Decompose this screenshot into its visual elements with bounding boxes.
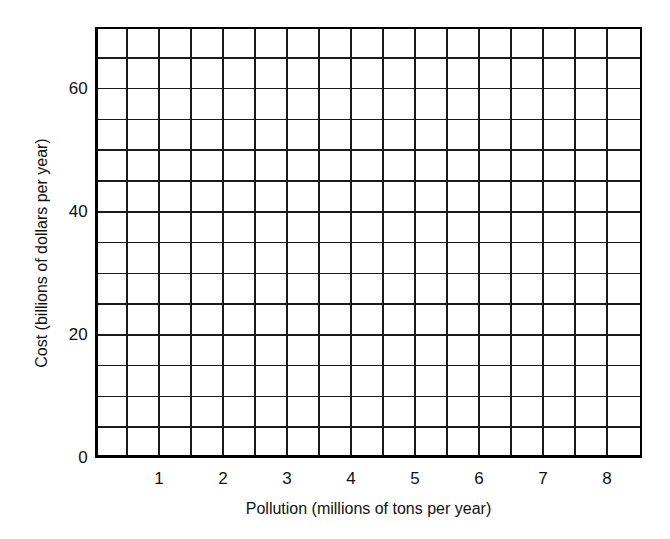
x-tick-label-6: 6 (459, 470, 499, 487)
x-tick-label-8: 8 (587, 470, 627, 487)
grid-lines (95, 27, 642, 458)
x-tick-label-4: 4 (331, 470, 371, 487)
x-tick-label-7: 7 (523, 470, 563, 487)
x-tick-label-2: 2 (203, 470, 243, 487)
x-tick-label-5: 5 (395, 470, 435, 487)
x-axis-title: Pollution (millions of tons per year) (95, 500, 642, 518)
plot-area (95, 27, 642, 458)
x-tick-label-3: 3 (267, 470, 307, 487)
cost-vs-pollution-chart: 0 20 40 60 1 2 3 4 5 6 7 8 Pollution (mi… (0, 0, 670, 539)
y-axis-title: Cost (billions of dollars per year) (31, 38, 53, 469)
x-axis-tick-labels: 1 2 3 4 5 6 7 8 (0, 470, 670, 492)
x-tick-label-1: 1 (139, 470, 179, 487)
